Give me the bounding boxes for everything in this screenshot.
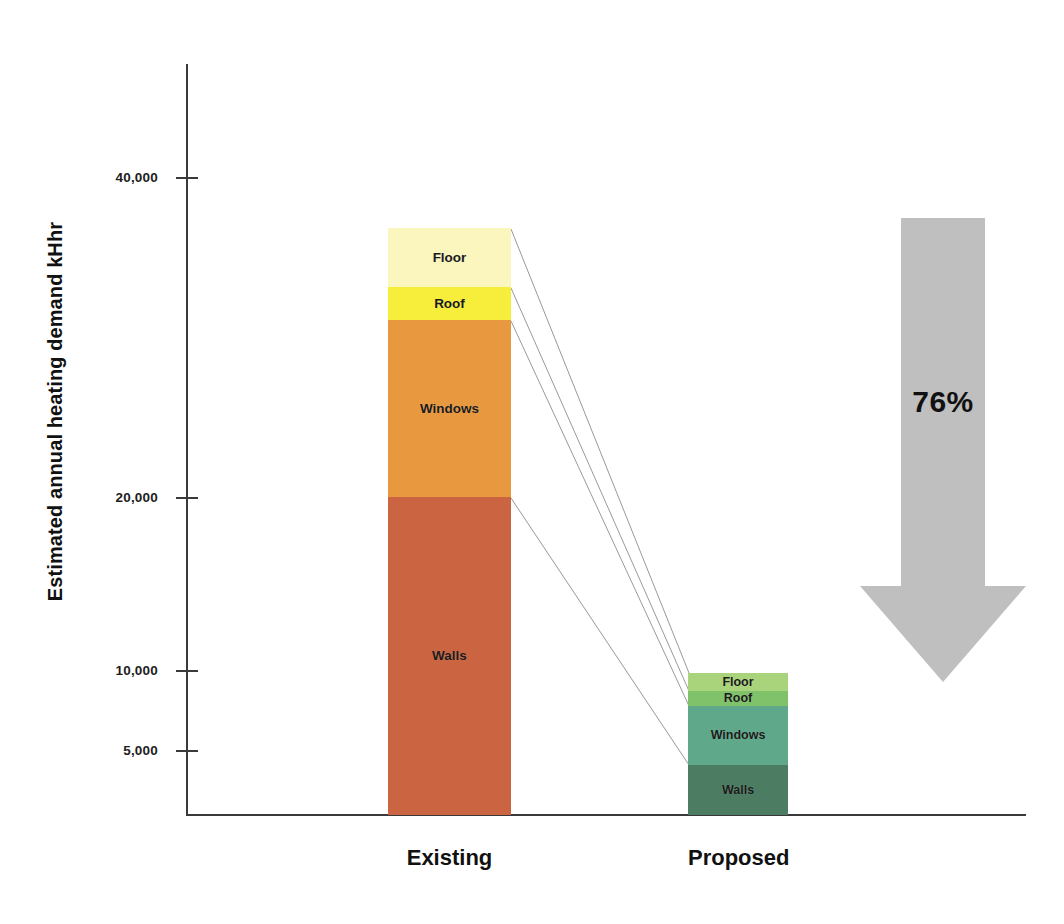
chart-canvas: Estimated annual heating demand kHhr 40,…: [0, 0, 1064, 924]
proposed-segment-roof-label: Roof: [724, 692, 752, 705]
y-axis-title: Estimated annual heating demand kHhr: [44, 202, 67, 622]
category-label-existing: Existing: [388, 845, 511, 871]
existing-segment-floor-label: Floor: [433, 251, 467, 265]
down-arrow-icon: [860, 218, 1026, 682]
x-axis-line: [186, 814, 1026, 816]
category-label-proposed: Proposed: [688, 845, 788, 871]
existing-segment-walls-label: Walls: [432, 649, 467, 663]
proposed-segment-floor-label: Floor: [722, 676, 753, 689]
existing-segment-windows[interactable]: Windows: [388, 320, 511, 497]
proposed-segment-walls[interactable]: Walls: [688, 765, 788, 815]
y-tick-label-5000: 5,000: [123, 743, 158, 758]
y-tick-20000: [176, 497, 198, 499]
y-tick-40000: [176, 177, 198, 179]
existing-segment-windows-label: Windows: [420, 402, 479, 416]
existing-segment-roof[interactable]: Roof: [388, 287, 511, 320]
proposed-segment-windows-label: Windows: [711, 729, 766, 742]
existing-segment-floor[interactable]: Floor: [388, 228, 511, 287]
y-tick-label-10000: 10,000: [116, 663, 159, 678]
y-tick-label-40000: 40,000: [116, 170, 159, 185]
y-tick-10000: [176, 670, 198, 672]
proposed-segment-roof[interactable]: Roof: [688, 691, 788, 706]
existing-segment-walls[interactable]: Walls: [388, 497, 511, 815]
reduction-percent-label: 76%: [860, 385, 1026, 419]
y-tick-5000: [176, 750, 198, 752]
proposed-segment-walls-label: Walls: [722, 784, 754, 797]
proposed-segment-floor[interactable]: Floor: [688, 673, 788, 691]
existing-segment-roof-label: Roof: [434, 297, 465, 311]
proposed-segment-windows[interactable]: Windows: [688, 706, 788, 765]
y-tick-label-20000: 20,000: [116, 490, 159, 505]
